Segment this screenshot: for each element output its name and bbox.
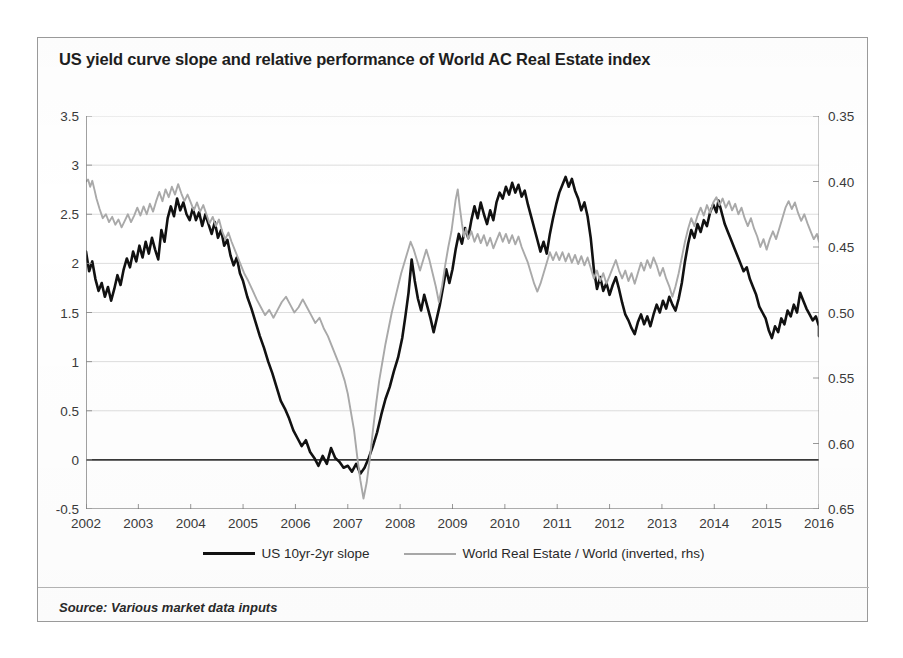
y-axis-left-tick-label: 3.5	[38, 109, 79, 124]
y-axis-left-tick-label: 2	[38, 256, 79, 271]
chart-title: US yield curve slope and relative perfor…	[59, 50, 650, 69]
legend-item-slope: US 10yr-2yr slope	[203, 546, 370, 561]
y-axis-right-tick-label: 0.45	[828, 240, 854, 255]
y-axis-left-tick-label: 3	[38, 158, 79, 173]
source-divider	[38, 587, 869, 588]
legend-item-real-estate: World Real Estate / World (inverted, rhs…	[404, 546, 705, 561]
y-axis-right-tick-label: 0.65	[828, 502, 854, 517]
chart-plot-svg	[86, 116, 819, 509]
source-note: Source: Various market data inputs	[59, 600, 277, 615]
y-axis-left-tick-label: 0	[38, 452, 79, 467]
y-axis-right-tick-label: 0.35	[828, 109, 854, 124]
legend-label-slope: US 10yr-2yr slope	[262, 546, 370, 561]
y-axis-left-tick-label: 0.5	[38, 403, 79, 418]
chart-legend: US 10yr-2yr slope World Real Estate / Wo…	[38, 546, 869, 561]
x-axis-tick-label: 2008	[385, 516, 415, 531]
x-axis-tick-label: 2005	[228, 516, 258, 531]
x-axis-tick-label: 2004	[176, 516, 206, 531]
y-axis-left-tick-label: 1.5	[38, 305, 79, 320]
x-axis-tick-label: 2010	[490, 516, 520, 531]
x-axis-tick-label: 2013	[647, 516, 677, 531]
y-axis-right-tick-label: 0.60	[828, 436, 854, 451]
legend-label-real-estate: World Real Estate / World (inverted, rhs…	[463, 546, 705, 561]
plot-area	[86, 116, 819, 509]
x-axis-tick-label: 2006	[280, 516, 310, 531]
x-axis-tick-label: 2011	[543, 516, 572, 531]
x-axis-tick-label: 2014	[699, 516, 729, 531]
x-axis-tick-label: 2007	[333, 516, 363, 531]
y-axis-right-tick-label: 0.50	[828, 305, 854, 320]
chart-figure-frame: US yield curve slope and relative perfor…	[37, 37, 868, 622]
series-line-real-estate	[86, 180, 819, 499]
y-axis-left-tick-label: -0.5	[38, 502, 79, 517]
x-axis-tick-label: 2015	[752, 516, 782, 531]
legend-line-swatch-gray-icon	[404, 553, 456, 555]
x-axis-tick-label: 2003	[123, 516, 153, 531]
x-axis-tick-label: 2002	[71, 516, 101, 531]
y-axis-left-tick-label: 1	[38, 354, 79, 369]
x-axis-tick-label: 2016	[804, 516, 834, 531]
x-axis-tick-label: 2009	[437, 516, 467, 531]
y-axis-right-tick-label: 0.55	[828, 371, 854, 386]
x-axis-tick-label: 2012	[595, 516, 625, 531]
legend-line-swatch-black-icon	[203, 552, 255, 555]
y-axis-right-tick-label: 0.40	[828, 174, 854, 189]
y-axis-left-tick-label: 2.5	[38, 207, 79, 222]
